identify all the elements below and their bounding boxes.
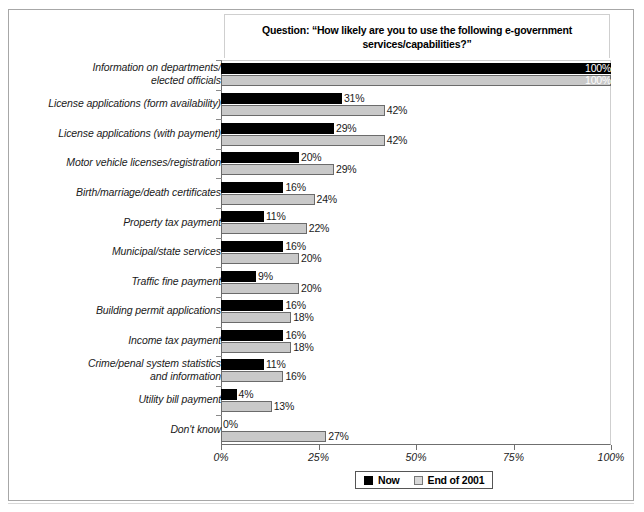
y-axis-tick xyxy=(216,149,222,150)
bar-now xyxy=(221,123,334,134)
category-label: Information on departments/elected offic… xyxy=(11,61,221,86)
bar-value-end-of-2001: 18% xyxy=(293,341,313,353)
chart-title: Question: “How likely are you to use the… xyxy=(256,23,578,51)
bar-now xyxy=(221,271,256,282)
bar-value-now: 9% xyxy=(258,270,273,282)
category-label: Traffic fine payment xyxy=(11,275,221,288)
bar-end-of-2001 xyxy=(221,75,611,86)
bar-now xyxy=(221,359,264,370)
y-axis-tick xyxy=(216,238,222,239)
category-label: Don't know xyxy=(11,423,221,436)
category-label-line: Building permit applications xyxy=(11,304,221,317)
y-axis-tick xyxy=(216,119,222,120)
legend-label-now: Now xyxy=(378,474,400,486)
category-label-line: Property tax payment xyxy=(11,216,221,229)
bar-value-now: 29% xyxy=(336,122,356,134)
bar-value-end-of-2001: 18% xyxy=(293,311,313,323)
y-axis-tick xyxy=(216,208,222,209)
chart-row: Municipal/state services16%20% xyxy=(8,238,634,268)
chart-legend: Now End of 2001 xyxy=(355,471,493,489)
chart-row: Property tax payment11%22% xyxy=(8,208,634,238)
bar-end-of-2001 xyxy=(221,401,272,412)
bar-value-end-of-2001: 13% xyxy=(274,400,294,412)
bar-end-of-2001 xyxy=(221,371,283,382)
category-label-line: Birth/marriage/death certificates xyxy=(11,186,221,199)
category-label: Municipal/state services xyxy=(11,245,221,258)
category-label: Utility bill payment xyxy=(11,393,221,406)
category-label-line: Utility bill payment xyxy=(11,393,221,406)
bar-value-end-of-2001: 22% xyxy=(309,222,329,234)
chart-row: Building permit applications16%18% xyxy=(8,297,634,327)
bar-end-of-2001 xyxy=(221,312,291,323)
category-label-line: elected officials xyxy=(11,74,221,87)
bar-value-now: 16% xyxy=(285,329,305,341)
category-label-line: and information xyxy=(11,370,221,383)
chart-row: Utility bill payment4%13% xyxy=(8,386,634,416)
category-label: Income tax payment xyxy=(11,334,221,347)
category-label-line: Traffic fine payment xyxy=(11,275,221,288)
chart-title-line-1: Question: “How likely are you to use the… xyxy=(262,24,572,36)
category-label: Motor vehicle licenses/registration xyxy=(11,156,221,169)
legend-item-now: Now xyxy=(364,474,400,486)
chart-row: License applications (form availability)… xyxy=(8,90,634,120)
bar-value-now: 100% xyxy=(585,62,611,74)
x-axis-tick xyxy=(514,445,515,450)
bar-end-of-2001 xyxy=(221,105,385,116)
bar-value-now: 16% xyxy=(285,181,305,193)
chart-row: Traffic fine payment9%20% xyxy=(8,267,634,297)
bar-value-end-of-2001: 42% xyxy=(387,134,407,146)
bar-end-of-2001 xyxy=(221,194,315,205)
bar-value-now: 11% xyxy=(266,358,286,370)
bar-end-of-2001 xyxy=(221,283,299,294)
bar-end-of-2001 xyxy=(221,223,307,234)
category-label: Crime/penal system statisticsand informa… xyxy=(11,357,221,382)
bar-now xyxy=(221,93,342,104)
category-label-line: Crime/penal system statistics xyxy=(11,357,221,370)
legend-label-end-of-2001: End of 2001 xyxy=(428,474,485,486)
bar-value-now: 31% xyxy=(344,92,364,104)
bar-end-of-2001 xyxy=(221,253,299,264)
category-label-line: Don't know xyxy=(11,423,221,436)
y-axis-tick xyxy=(216,297,222,298)
chart-screenshot: Question: “How likely are you to use the… xyxy=(0,0,644,512)
chart-row: Motor vehicle licenses/registration20%29… xyxy=(8,149,634,179)
category-label: License applications (with payment) xyxy=(11,127,221,140)
bar-value-now: 0% xyxy=(223,418,238,430)
category-label: Birth/marriage/death certificates xyxy=(11,186,221,199)
chart-row: Crime/penal system statisticsand informa… xyxy=(8,356,634,386)
category-rows: Information on departments/elected offic… xyxy=(8,60,634,445)
bar-value-end-of-2001: 29% xyxy=(336,163,356,175)
legend-swatch-end-of-2001-icon xyxy=(414,476,423,485)
bar-end-of-2001 xyxy=(221,164,334,175)
chart-row: License applications (with payment)29%42… xyxy=(8,119,634,149)
chart-title-box: Question: “How likely are you to use the… xyxy=(224,14,610,58)
category-label: Building permit applications xyxy=(11,304,221,317)
category-label-line: Motor vehicle licenses/registration xyxy=(11,156,221,169)
legend-swatch-now-icon xyxy=(364,476,373,485)
bar-value-now: 20% xyxy=(301,151,321,163)
category-label-line: License applications (with payment) xyxy=(11,127,221,140)
x-axis-tick-label: 25% xyxy=(308,451,329,463)
x-axis-tick-label: 0% xyxy=(213,451,228,463)
chart-row: Income tax payment16%18% xyxy=(8,327,634,357)
bar-value-end-of-2001: 20% xyxy=(301,252,321,264)
bar-value-end-of-2001: 100% xyxy=(585,74,611,86)
bar-end-of-2001 xyxy=(221,342,291,353)
bar-now xyxy=(221,389,237,400)
category-label-line: Information on departments/ xyxy=(11,61,221,74)
y-axis-tick xyxy=(216,60,222,61)
footer-rule xyxy=(8,503,634,504)
bar-now xyxy=(221,330,283,341)
bar-value-now: 16% xyxy=(285,299,305,311)
x-axis-tick xyxy=(319,445,320,450)
y-axis-tick xyxy=(216,415,222,416)
category-label: Property tax payment xyxy=(11,216,221,229)
y-axis-tick xyxy=(216,90,222,91)
x-axis: 0%25%50%75%100% xyxy=(221,445,612,465)
chart-title-line-2: services/capabilities?” xyxy=(362,38,471,50)
legend-item-end-of-2001: End of 2001 xyxy=(414,474,485,486)
bar-value-now: 11% xyxy=(266,210,286,222)
bar-value-end-of-2001: 27% xyxy=(328,430,348,442)
bar-value-end-of-2001: 24% xyxy=(317,193,337,205)
bar-now xyxy=(221,211,264,222)
